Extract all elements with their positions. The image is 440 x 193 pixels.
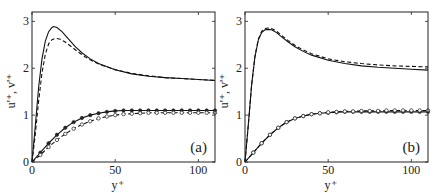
panel-tag: (a) bbox=[190, 139, 207, 156]
data-point bbox=[163, 111, 166, 114]
data-point bbox=[97, 112, 100, 115]
plot-frame bbox=[245, 12, 428, 162]
y-tick-label: 2 bbox=[23, 61, 29, 75]
x-tick-label: 50 bbox=[109, 163, 121, 177]
data-point bbox=[260, 142, 263, 145]
series-line-2 bbox=[245, 112, 428, 162]
data-point bbox=[155, 111, 158, 114]
data-point bbox=[410, 109, 413, 112]
data-point bbox=[147, 111, 150, 114]
data-point bbox=[64, 132, 67, 135]
x-tick-label: 100 bbox=[402, 163, 420, 177]
data-point bbox=[351, 110, 354, 113]
data-point bbox=[197, 111, 200, 114]
panel-tag: (b) bbox=[403, 139, 421, 156]
panel-b: 0501000123y⁺u'⁺, v'⁺(b) bbox=[217, 12, 430, 192]
x-axis-label: y⁺ bbox=[325, 178, 337, 192]
series-line-3 bbox=[32, 113, 215, 162]
data-point bbox=[393, 109, 396, 112]
series-line-0 bbox=[32, 27, 215, 162]
x-axis-label: y⁺ bbox=[112, 178, 124, 192]
data-point bbox=[285, 120, 288, 123]
data-point bbox=[113, 109, 116, 112]
data-point bbox=[205, 111, 208, 114]
y-tick-label: 0 bbox=[23, 155, 29, 169]
series-line-1 bbox=[245, 28, 428, 162]
data-point bbox=[293, 117, 296, 120]
data-point bbox=[122, 109, 125, 112]
data-point bbox=[335, 110, 338, 113]
data-point bbox=[172, 111, 175, 114]
data-point bbox=[385, 109, 388, 112]
data-point bbox=[188, 111, 191, 114]
data-point bbox=[80, 123, 83, 126]
series-line-1 bbox=[32, 38, 215, 162]
data-point bbox=[105, 110, 108, 113]
data-point bbox=[368, 109, 371, 112]
data-point bbox=[326, 111, 329, 114]
data-point bbox=[310, 112, 313, 115]
data-point bbox=[89, 113, 92, 116]
data-point bbox=[138, 112, 141, 115]
data-point bbox=[105, 115, 108, 118]
data-point bbox=[130, 112, 133, 115]
figure: 0501000123y⁺u'⁺, v'⁺(a)0501000123y⁺u'⁺, … bbox=[0, 0, 440, 193]
data-point bbox=[47, 142, 50, 145]
data-point bbox=[180, 111, 183, 114]
data-point bbox=[343, 110, 346, 113]
data-point bbox=[47, 145, 50, 148]
series-line-0 bbox=[245, 29, 428, 162]
data-point bbox=[401, 109, 404, 112]
data-point bbox=[113, 113, 116, 116]
panel-a: 0501000123y⁺u'⁺, v'⁺(a) bbox=[4, 12, 217, 192]
data-point bbox=[252, 151, 255, 154]
data-point bbox=[302, 114, 305, 117]
data-point bbox=[360, 109, 363, 112]
x-tick-label: 0 bbox=[242, 163, 248, 177]
y-axis-label: u'⁺, v'⁺ bbox=[4, 74, 18, 108]
data-point bbox=[39, 153, 42, 156]
data-point bbox=[55, 133, 58, 136]
y-tick-label: 1 bbox=[23, 108, 29, 122]
data-point bbox=[72, 120, 75, 123]
y-tick-label: 2 bbox=[236, 61, 242, 75]
y-tick-label: 0 bbox=[236, 155, 242, 169]
y-tick-label: 1 bbox=[236, 108, 242, 122]
series-line-3 bbox=[245, 110, 428, 162]
series-line-2 bbox=[32, 110, 215, 162]
x-tick-label: 100 bbox=[189, 163, 207, 177]
data-point bbox=[80, 116, 83, 119]
data-point bbox=[97, 117, 100, 120]
data-point bbox=[55, 138, 58, 141]
y-tick-label: 3 bbox=[23, 14, 29, 28]
data-point bbox=[89, 120, 92, 123]
plot-frame bbox=[32, 12, 215, 162]
data-point bbox=[268, 133, 271, 136]
data-point bbox=[418, 109, 421, 112]
data-point bbox=[64, 126, 67, 129]
data-point bbox=[72, 127, 75, 130]
data-point bbox=[318, 112, 321, 115]
data-point bbox=[277, 126, 280, 129]
data-point bbox=[122, 112, 125, 115]
y-axis-label: u'⁺, v'⁺ bbox=[217, 74, 231, 108]
data-point bbox=[376, 109, 379, 112]
x-tick-label: 50 bbox=[322, 163, 334, 177]
x-tick-label: 0 bbox=[29, 163, 35, 177]
y-tick-label: 3 bbox=[236, 14, 242, 28]
